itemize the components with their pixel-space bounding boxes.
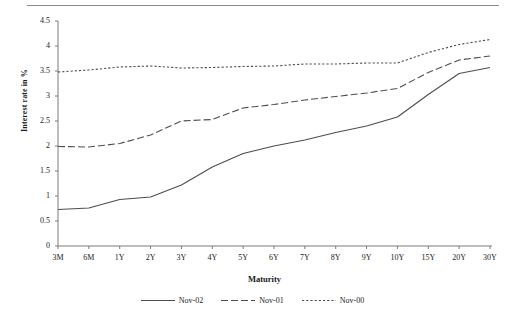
x-tick-label: 2Y <box>134 254 168 262</box>
x-tick-label: 4Y <box>195 254 229 262</box>
chart-legend: Nov-02Nov-01Nov-00 <box>0 295 505 305</box>
legend-line-swatch <box>221 297 255 304</box>
x-tick-label: 9Y <box>350 254 384 262</box>
y-tick-label: 1.5 <box>24 167 50 175</box>
y-tick-label: 1 <box>24 192 50 200</box>
series-line-nov-02 <box>58 68 490 210</box>
figure-container: Interest rate in % 00.511.522.533.544.5 … <box>0 0 505 319</box>
x-tick-label: 8Y <box>319 254 353 262</box>
x-tick-label: 15Y <box>411 254 445 262</box>
y-tick-label: 4.5 <box>24 17 50 25</box>
x-tick-label: 6Y <box>257 254 291 262</box>
x-tick-label: 10Y <box>380 254 414 262</box>
series-line-nov-01 <box>58 56 490 147</box>
x-tick-label: 30Y <box>473 254 505 262</box>
x-tick-label: 3M <box>41 254 75 262</box>
legend-item-nov-02[interactable]: Nov-02 <box>141 295 203 305</box>
legend-item-nov-00[interactable]: Nov-00 <box>302 295 364 305</box>
y-tick-label: 2.5 <box>24 117 50 125</box>
y-tick-label: 3 <box>24 92 50 100</box>
legend-label: Nov-00 <box>340 296 364 305</box>
legend-line-swatch <box>141 297 175 304</box>
legend-label: Nov-01 <box>259 296 283 305</box>
x-axis-title-text: Maturity <box>224 274 281 284</box>
legend-item-nov-01[interactable]: Nov-01 <box>221 295 283 305</box>
y-tick-label: 3.5 <box>24 67 50 75</box>
y-tick-label: 2 <box>24 142 50 150</box>
y-tick-label: 0 <box>24 242 50 250</box>
y-tick-label: 4 <box>24 42 50 50</box>
x-tick-label: 7Y <box>288 254 322 262</box>
x-tick-label: 3Y <box>164 254 198 262</box>
x-tick-label: 20Y <box>442 254 476 262</box>
x-axis-title: Maturity <box>0 274 505 284</box>
x-tick-label: 5Y <box>226 254 260 262</box>
x-tick-label: 6M <box>72 254 106 262</box>
line-chart-plot <box>0 0 505 319</box>
x-tick-label: 1Y <box>103 254 137 262</box>
y-tick-label: 0.5 <box>24 217 50 225</box>
legend-label: Nov-02 <box>179 296 203 305</box>
series-line-nov-00 <box>58 40 490 73</box>
legend-line-swatch <box>302 297 336 304</box>
